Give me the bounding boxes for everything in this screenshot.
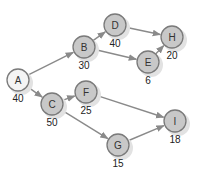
node-weight: 40 (12, 93, 24, 104)
node-label: G (114, 140, 122, 151)
node-weight: 50 (46, 117, 58, 128)
node-c: C50 (41, 93, 67, 128)
node-b: B30 (73, 36, 99, 71)
node-d: D40 (104, 14, 130, 49)
edge-g-i (128, 126, 164, 141)
node-weight: 40 (109, 38, 121, 49)
network-diagram: A40B30C50D40E6F25G15H20I18 (0, 0, 202, 170)
edge-d-h (126, 27, 160, 34)
node-label: C (48, 99, 55, 110)
graph-canvas: A40B30C50D40E6F25G15H20I18 (0, 0, 202, 170)
node-weight: 30 (78, 60, 90, 71)
node-e: E6 (137, 51, 163, 86)
node-weight: 20 (166, 50, 178, 61)
node-f: F25 (75, 81, 101, 116)
node-a: A40 (7, 69, 33, 104)
node-label: I (174, 116, 177, 127)
edge-b-e (95, 50, 137, 60)
node-weight: 15 (112, 158, 124, 169)
node-label: B (81, 42, 88, 53)
edge-f-i (96, 95, 163, 117)
node-g: G15 (107, 134, 133, 169)
edge-b-d (93, 32, 105, 41)
edge-e-h (156, 46, 164, 54)
node-weight: 18 (169, 134, 181, 145)
node-label: E (145, 57, 152, 68)
node-i: I18 (164, 110, 190, 145)
node-weight: 25 (80, 105, 92, 116)
node-label: A (15, 75, 22, 86)
node-label: D (111, 20, 118, 31)
node-label: F (83, 87, 89, 98)
edge-a-b (28, 52, 73, 75)
node-weight: 6 (145, 75, 151, 86)
node-h: H20 (161, 26, 187, 61)
node-label: H (168, 32, 175, 43)
